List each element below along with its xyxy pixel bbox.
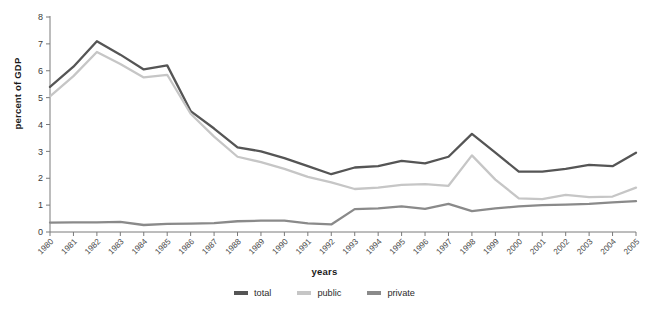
chart-legend: totalpublicprivate [0, 288, 649, 298]
legend-swatch-public [297, 291, 311, 294]
svg-text:2003: 2003 [575, 237, 595, 257]
svg-text:1999: 1999 [482, 237, 502, 257]
svg-text:1996: 1996 [411, 237, 431, 257]
svg-text:1995: 1995 [388, 237, 408, 257]
svg-text:1993: 1993 [341, 237, 361, 257]
svg-text:1: 1 [38, 200, 43, 210]
svg-text:1982: 1982 [83, 237, 103, 257]
svg-text:3: 3 [38, 147, 43, 157]
svg-text:4: 4 [38, 120, 43, 130]
svg-text:5: 5 [38, 93, 43, 103]
svg-text:8: 8 [38, 12, 43, 22]
svg-text:1985: 1985 [153, 237, 173, 257]
x-axis-title: years [0, 266, 649, 277]
svg-text:7: 7 [38, 39, 43, 49]
legend-swatch-total [234, 291, 248, 294]
svg-text:1998: 1998 [458, 237, 478, 257]
svg-text:1992: 1992 [317, 237, 337, 257]
svg-text:1989: 1989 [247, 237, 267, 257]
legend-item-total[interactable]: total [234, 288, 271, 298]
svg-text:2002: 2002 [552, 237, 572, 257]
svg-text:1994: 1994 [364, 237, 384, 257]
svg-text:1988: 1988 [224, 237, 244, 257]
legend-label-private: private [387, 288, 415, 298]
svg-text:1997: 1997 [435, 237, 455, 257]
chart-container: percent of GDP 0123456781980198119821983… [0, 0, 649, 315]
svg-text:2001: 2001 [528, 237, 548, 257]
svg-text:2005: 2005 [622, 237, 642, 257]
svg-text:1984: 1984 [130, 237, 150, 257]
legend-label-public: public [317, 288, 341, 298]
svg-text:2000: 2000 [505, 237, 525, 257]
svg-text:1987: 1987 [200, 237, 220, 257]
svg-text:2: 2 [38, 173, 43, 183]
svg-text:1986: 1986 [177, 237, 197, 257]
svg-text:1990: 1990 [271, 237, 291, 257]
svg-text:2004: 2004 [599, 237, 619, 257]
svg-text:1983: 1983 [106, 237, 126, 257]
legend-item-public[interactable]: public [297, 288, 341, 298]
svg-text:1980: 1980 [36, 237, 56, 257]
svg-text:1981: 1981 [60, 237, 80, 257]
legend-item-private[interactable]: private [367, 288, 415, 298]
svg-text:6: 6 [38, 66, 43, 76]
legend-label-total: total [254, 288, 271, 298]
svg-text:1991: 1991 [294, 237, 314, 257]
svg-text:0: 0 [38, 227, 43, 237]
legend-swatch-private [367, 291, 381, 294]
